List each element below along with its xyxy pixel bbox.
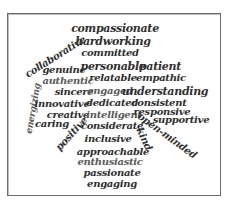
word-personable: personable	[80, 61, 145, 72]
word-passionate: passionate	[84, 168, 141, 178]
word-empathic: empathic	[136, 73, 186, 83]
word-inclusive: inclusive	[84, 134, 131, 144]
word-dedicated: dedicated	[86, 98, 138, 108]
word-engaging: engaging	[87, 179, 137, 189]
word-caring: caring	[35, 119, 69, 129]
word-relatable: relatable	[89, 73, 136, 83]
word-compassionate: compassionate	[71, 23, 159, 34]
word-genuine: genuine	[42, 65, 85, 75]
word-innovative: innovative	[35, 99, 90, 109]
word-understanding: understanding	[122, 86, 209, 97]
word-committed: committed	[81, 48, 139, 58]
word-authentic: authentic	[42, 76, 93, 86]
word-enthusiastic: enthusiastic	[77, 157, 142, 167]
word-patient: patient	[139, 61, 181, 72]
